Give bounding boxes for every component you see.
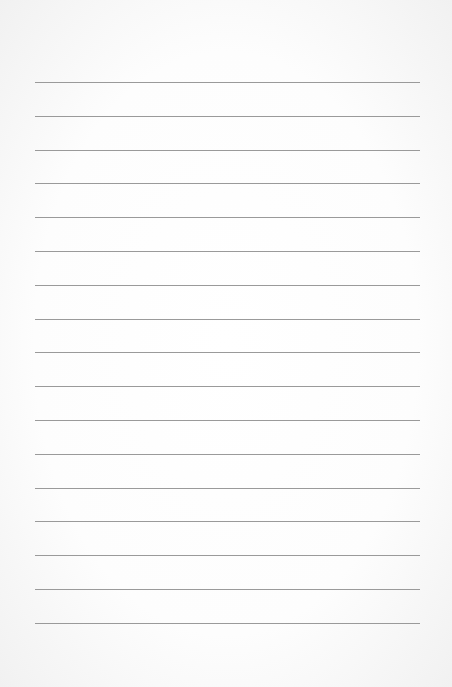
ruled-line	[35, 488, 420, 489]
ruled-line	[35, 251, 420, 252]
ruled-line	[35, 285, 420, 286]
ruled-line	[35, 555, 420, 556]
ruled-line	[35, 454, 420, 455]
ruled-line	[35, 521, 420, 522]
ruled-line	[35, 183, 420, 184]
ruled-line	[35, 352, 420, 353]
ruled-lines	[0, 0, 452, 687]
ruled-line	[35, 386, 420, 387]
ruled-line	[35, 217, 420, 218]
ruled-line	[35, 116, 420, 117]
ruled-line	[35, 82, 420, 83]
ruled-line	[35, 589, 420, 590]
lined-paper-page	[0, 0, 452, 687]
ruled-line	[35, 150, 420, 151]
ruled-line	[35, 319, 420, 320]
ruled-line	[35, 420, 420, 421]
ruled-line	[35, 623, 420, 624]
